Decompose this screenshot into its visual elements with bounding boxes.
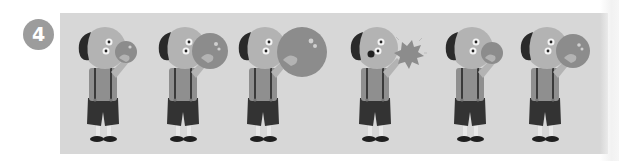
- frame-2-medium-bubble: [159, 27, 228, 142]
- frame-6-medium-bubble: [521, 27, 590, 142]
- frame-4-bubble-popped: [351, 27, 427, 142]
- bubble-gum-sequence-illustration: [0, 0, 619, 161]
- frame-3-large-bubble: [239, 27, 327, 142]
- page-edge-fade: [600, 0, 619, 161]
- frame-5-small-bubble: [446, 27, 503, 142]
- frame-1-small-bubble: [79, 27, 137, 142]
